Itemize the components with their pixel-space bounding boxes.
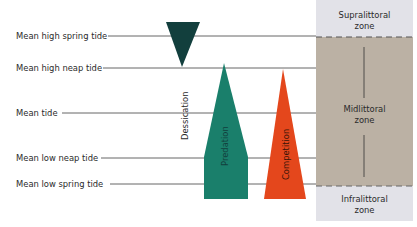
dessication-shape xyxy=(166,22,200,67)
midlittoral-zone-label: Midlittoral zone xyxy=(316,104,413,126)
midlittoral-zone-label-line1: Midlittoral xyxy=(316,104,413,115)
supralittoral-zone-label: Supralittoral zone xyxy=(316,10,413,32)
tide-label-mean-high-spring: Mean high spring tide xyxy=(16,31,107,41)
tide-label-mean-high-neap: Mean high neap tide xyxy=(16,63,102,73)
dessication-label: Dessication xyxy=(180,92,190,140)
supralittoral-zone-label-line1: Supralittoral xyxy=(316,10,413,21)
tide-label-mean-low-neap: Mean low neap tide xyxy=(16,153,98,163)
supralittoral-zone-label-line2: zone xyxy=(316,21,413,32)
tide-label-mean-low-spring: Mean low spring tide xyxy=(16,179,103,189)
tide-label-mean: Mean tide xyxy=(16,108,58,118)
infralittoral-zone-label-line2: zone xyxy=(316,205,413,216)
infralittoral-zone-label-line1: Infralittoral xyxy=(316,194,413,205)
predation-label: Predation xyxy=(220,126,230,166)
infralittoral-zone-label: Infralittoral zone xyxy=(316,194,413,216)
midlittoral-zone-label-line2: zone xyxy=(316,115,413,126)
competition-label: Competition xyxy=(281,129,291,180)
